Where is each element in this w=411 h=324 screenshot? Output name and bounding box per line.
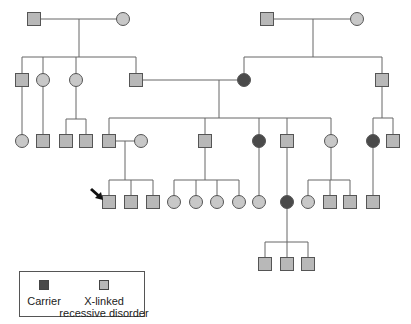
- legend-affected: X-linked recessive disorder: [58, 280, 150, 319]
- legend-affected-label-line1: X-linked: [58, 295, 150, 307]
- female-circle-icon: [16, 135, 29, 148]
- female-circle-icon: [70, 74, 83, 87]
- male-square-icon: [125, 196, 138, 209]
- female-circle-icon: [253, 135, 266, 148]
- male-square-icon: [302, 258, 315, 271]
- female-circle-icon: [325, 135, 338, 148]
- legend-affected-label-line2: recessive disorder: [58, 307, 150, 319]
- male-square-icon: [367, 196, 380, 209]
- female-circle-icon: [367, 135, 380, 148]
- male-square-icon: [60, 135, 73, 148]
- female-circle-icon: [253, 196, 266, 209]
- legend: Carrier X-linked recessive disorder: [19, 271, 145, 317]
- male-square-icon: [259, 258, 272, 271]
- male-square-icon: [130, 74, 143, 87]
- affected-swatch-icon: [99, 280, 109, 290]
- male-square-icon: [103, 135, 116, 148]
- male-square-icon: [376, 74, 389, 87]
- pedigree-symbols: [16, 13, 400, 271]
- male-square-icon: [199, 135, 212, 148]
- female-circle-icon: [190, 196, 203, 209]
- male-square-icon: [261, 13, 274, 26]
- male-square-icon: [16, 74, 29, 87]
- female-circle-icon: [117, 13, 130, 26]
- female-circle-icon: [233, 196, 246, 209]
- male-square-icon: [387, 135, 400, 148]
- female-circle-icon: [351, 13, 364, 26]
- male-square-icon: [281, 135, 294, 148]
- female-circle-icon: [211, 196, 224, 209]
- female-circle-icon: [281, 196, 294, 209]
- male-square-icon: [37, 135, 50, 148]
- male-square-icon: [103, 196, 116, 209]
- proband-arrow-icon: [91, 189, 103, 200]
- male-square-icon: [28, 13, 41, 26]
- carrier-swatch-icon: [39, 280, 49, 290]
- male-square-icon: [147, 196, 160, 209]
- female-circle-icon: [168, 196, 181, 209]
- female-circle-icon: [238, 74, 251, 87]
- female-circle-icon: [37, 74, 50, 87]
- male-square-icon: [344, 196, 357, 209]
- female-circle-icon: [302, 196, 315, 209]
- male-square-icon: [281, 258, 294, 271]
- female-circle-icon: [135, 135, 148, 148]
- male-square-icon: [324, 196, 337, 209]
- male-square-icon: [80, 135, 93, 148]
